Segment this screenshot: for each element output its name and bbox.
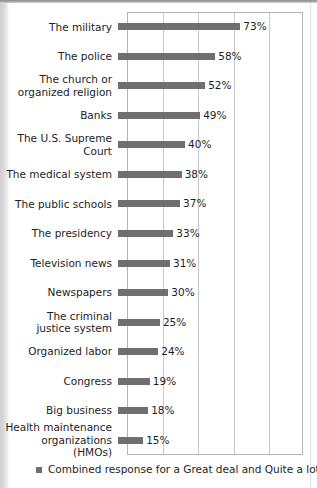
- bar: [118, 230, 173, 237]
- bar: [118, 348, 158, 355]
- bar: [118, 23, 240, 30]
- bar-value-label: 15%: [146, 434, 169, 447]
- bar-zone: 30%: [118, 278, 317, 308]
- bar-value-label: 19%: [153, 375, 176, 388]
- bar-zone: 24%: [118, 337, 317, 367]
- chart-row: Health maintenance organizations (HMOs)1…: [0, 425, 317, 455]
- chart-row: Television news31%: [0, 248, 317, 278]
- bar: [118, 378, 150, 385]
- chart-row: The military73%: [0, 12, 317, 42]
- bar-zone: 52%: [118, 71, 317, 101]
- bar-value-label: 37%: [183, 197, 206, 210]
- category-label: Big business: [0, 404, 118, 417]
- chart-rows: The military73%The police58%The church o…: [0, 12, 317, 455]
- chart-row: The church or organized religion52%: [0, 71, 317, 101]
- bar-zone: 37%: [118, 189, 317, 219]
- category-label: The medical system: [0, 168, 118, 181]
- bar-zone: 19%: [118, 366, 317, 396]
- category-label: Television news: [0, 257, 118, 270]
- category-label: The military: [0, 21, 118, 34]
- bar: [118, 141, 185, 148]
- bar-value-label: 30%: [171, 286, 194, 299]
- bar-value-label: 18%: [151, 404, 174, 417]
- bar: [118, 112, 200, 119]
- bar: [118, 171, 182, 178]
- category-label: The police: [0, 50, 118, 63]
- category-label: Banks: [0, 109, 118, 122]
- bar-value-label: 24%: [161, 345, 184, 358]
- chart-row: Congress19%: [0, 366, 317, 396]
- bar: [118, 319, 160, 326]
- bar: [118, 53, 215, 60]
- bar: [118, 82, 205, 89]
- bar-zone: 73%: [118, 12, 317, 42]
- category-label: The presidency: [0, 227, 118, 240]
- bar-value-label: 25%: [163, 316, 186, 329]
- chart-row: The police58%: [0, 42, 317, 72]
- category-label: The U.S. Supreme Court: [0, 132, 118, 157]
- bar-value-label: 49%: [203, 109, 226, 122]
- bar-zone: 33%: [118, 219, 317, 249]
- bar-value-label: 52%: [208, 79, 231, 92]
- bar: [118, 289, 168, 296]
- bar-zone: 49%: [118, 101, 317, 131]
- legend-label: Combined response for a Great deal and Q…: [48, 463, 317, 476]
- bar-value-label: 40%: [188, 138, 211, 151]
- category-label: Health maintenance organizations (HMOs): [0, 421, 118, 459]
- bar-chart: The military73%The police58%The church o…: [0, 0, 317, 488]
- chart-row: The presidency33%: [0, 219, 317, 249]
- chart-legend: Combined response for a Great deal and Q…: [36, 463, 317, 476]
- chart-row: The criminal justice system25%: [0, 307, 317, 337]
- bar-zone: 58%: [118, 42, 317, 72]
- bar-value-label: 73%: [243, 20, 266, 33]
- bar-zone: 38%: [118, 160, 317, 190]
- chart-row: Organized labor24%: [0, 337, 317, 367]
- chart-row: The U.S. Supreme Court40%: [0, 130, 317, 160]
- category-label: The public schools: [0, 198, 118, 211]
- bar-zone: 40%: [118, 130, 317, 160]
- bar-zone: 18%: [118, 396, 317, 426]
- chart-row: The medical system38%: [0, 160, 317, 190]
- bar-zone: 15%: [118, 425, 317, 455]
- bar-zone: 25%: [118, 307, 317, 337]
- bar-zone: 31%: [118, 248, 317, 278]
- bar-value-label: 58%: [218, 50, 241, 63]
- bar-value-label: 33%: [176, 227, 199, 240]
- category-label: Congress: [0, 375, 118, 388]
- bar-value-label: 31%: [173, 257, 196, 270]
- bar: [118, 260, 170, 267]
- chart-row: Newspapers30%: [0, 278, 317, 308]
- category-label: The church or organized religion: [0, 73, 118, 98]
- bar: [118, 200, 180, 207]
- category-label: Newspapers: [0, 286, 118, 299]
- bar-value-label: 38%: [185, 168, 208, 181]
- bar: [118, 437, 143, 444]
- chart-row: The public schools37%: [0, 189, 317, 219]
- legend-square-marker-icon: [36, 467, 42, 473]
- category-label: Organized labor: [0, 345, 118, 358]
- bar: [118, 407, 148, 414]
- chart-row: Banks49%: [0, 101, 317, 131]
- category-label: The criminal justice system: [0, 310, 118, 335]
